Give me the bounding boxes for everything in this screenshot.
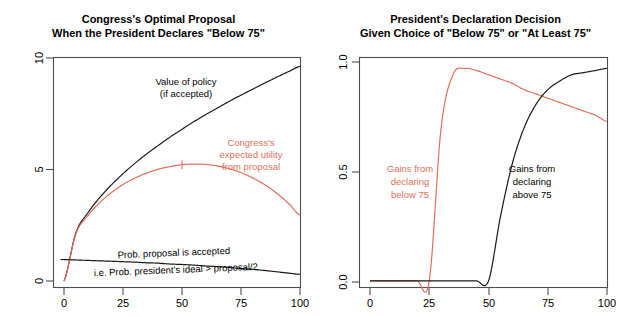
right-xlabel-100: 100 [598,297,616,309]
right-ylabel-10: 1.0 [337,54,349,69]
right-xlabel-0: 0 [367,297,373,309]
right-ylabel-05: 0.5 [337,164,349,179]
right-xlabel-25: 25 [423,297,435,309]
left-plot-area: 0 5 10 0 25 50 75 100 Value of policy (i… [0,0,317,317]
left-xlabel-75: 75 [235,297,247,309]
gains-below-75-label-line-2: declaring [391,176,430,187]
congress-utility-label-line-3: from proposal [222,161,280,172]
left-xlabel-100: 100 [291,297,309,309]
right-xlabel-75: 75 [542,297,554,309]
figure-canvas: Congress's Optimal Proposal When the Pre… [0,0,634,317]
panel-left: Congress's Optimal Proposal When the Pre… [0,0,317,317]
left-ylabel-0: 0 [33,278,45,284]
left-xlabel-50: 50 [176,297,188,309]
prob-accepted-label-line-2: i.e. Prob. president's ideal > proposal/… [94,261,259,278]
congress-utility-label-line-1: Congress's [227,137,274,148]
left-xlabel-0: 0 [61,297,67,309]
left-ylabel-5: 5 [33,166,45,172]
left-ylabel-10: 10 [33,52,45,64]
congress-utility-label-line-2: expected utility [220,149,283,160]
gains-above-75-label-line-1: Gains from [509,163,556,174]
gains-below-75-label-line-3: below 75 [391,189,429,200]
prob-accepted-label-line-1: Prob. proposal is accepted [117,245,230,260]
panel-right: President's Declaration Decision Given C… [317,0,634,317]
gains-above-75-label-line-2: declaring [513,176,552,187]
left-xlabel-25: 25 [117,297,129,309]
right-plot-area: 0.0 0.5 1.0 0 25 50 75 100 Gains from de… [317,0,634,317]
right-xlabel-50: 50 [483,297,495,309]
gains-below-75-label-line-1: Gains from [387,163,434,174]
gains-above-75-label-line-3: above 75 [512,189,551,200]
right-ylabel-00: 0.0 [337,274,349,289]
value-of-policy-label-line-1: Value of policy [155,76,216,87]
value-of-policy-label-line-2: (if accepted) [160,88,212,99]
